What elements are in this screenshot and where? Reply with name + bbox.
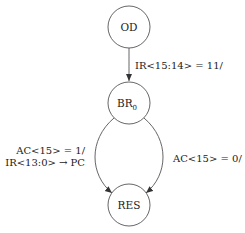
node-label-br0-main: BR — [117, 97, 134, 109]
node-label-od: OD — [120, 21, 137, 33]
node-br0: BR0 — [108, 82, 150, 124]
node-res: RES — [108, 184, 150, 226]
edge-label-br0-res-left-line1: AC<15> = 1/ — [15, 145, 85, 156]
node-od: OD — [108, 6, 150, 48]
node-label-br0-subscript: 0 — [133, 104, 137, 112]
edge-label-br0-res-right: AC<15> = 0/ — [172, 153, 242, 164]
edge-label-br0-res-left-line2: IR<13:0> → PC — [5, 157, 85, 168]
edge-br0-to-res-left — [95, 118, 114, 193]
edge-br0-to-res-right — [144, 118, 163, 193]
edge-label-od-br0: IR<15:14> = 11/ — [135, 60, 224, 71]
state-diagram: IR<15:14> = 11/ AC<15> = 1/ IR<13:0> → P… — [0, 0, 245, 233]
node-label-res: RES — [118, 199, 141, 211]
